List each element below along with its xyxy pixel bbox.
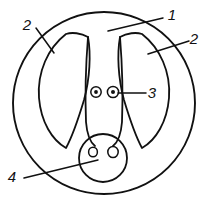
callout-label-2-left: 2 xyxy=(22,16,32,33)
callout-label-4: 4 xyxy=(8,168,16,185)
callout-label-3: 3 xyxy=(148,84,157,101)
eye-right-center-dot xyxy=(111,90,115,94)
diagram-canvas: 1 2 2 3 4 xyxy=(0,0,213,210)
callout-label-1: 1 xyxy=(168,6,176,23)
eye-left-center-dot xyxy=(94,90,98,94)
leader-line-1 xyxy=(108,18,163,31)
callout-label-2-right: 2 xyxy=(189,30,199,47)
line-diagram: 1 2 2 3 4 xyxy=(0,0,213,210)
left-lobe xyxy=(39,33,90,148)
nostril-right xyxy=(108,146,118,157)
nostril-left xyxy=(89,147,98,157)
snout-circle xyxy=(79,134,127,182)
